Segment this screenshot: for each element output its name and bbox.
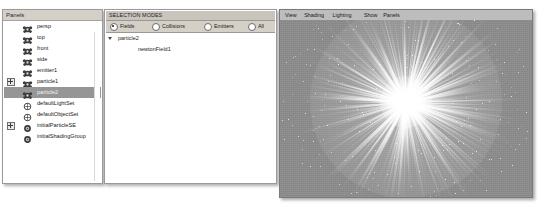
selection-modes-radio-group[interactable]: FieldsCollisionsEmittersAll	[106, 21, 275, 33]
outliner-item-label: initialParticleSE	[37, 120, 76, 131]
outliner-item-defaultlightset[interactable]: defaultLightSet	[4, 98, 101, 109]
field-tree[interactable]: particle2newtonField1	[106, 33, 275, 182]
viewport-menu-panels[interactable]: Panels	[383, 10, 399, 20]
particle-point	[338, 59, 339, 60]
outliner-list[interactable]: persptopfrontsideemitter1particle1partic…	[4, 21, 101, 182]
particle-point	[455, 193, 456, 194]
particle-point	[353, 29, 354, 30]
particle-point	[496, 81, 497, 82]
particle-point	[352, 156, 353, 157]
particle-point	[434, 191, 435, 192]
outliner-item-side[interactable]: side	[4, 54, 101, 65]
particle-point	[447, 149, 448, 150]
panels-outliner-window: Panels persptopfrontsideemitter1particle…	[2, 9, 103, 184]
particle-point	[449, 144, 450, 145]
particle-point	[361, 90, 362, 91]
particle-point	[504, 94, 505, 95]
particle-point	[518, 128, 519, 129]
outliner-item-persp[interactable]: persp	[4, 21, 101, 32]
particle-point	[448, 46, 449, 47]
particle-point	[467, 74, 468, 75]
outliner-item-label: front	[37, 43, 48, 54]
radio-indicator-icon[interactable]	[248, 23, 256, 31]
expand-toggle-icon[interactable]	[7, 78, 15, 86]
particle-point	[489, 101, 490, 102]
particle-point	[523, 66, 524, 67]
particle-point	[310, 166, 311, 167]
expand-toggle-icon[interactable]	[7, 122, 15, 130]
particle-point	[366, 22, 367, 23]
particle-point	[375, 150, 376, 151]
viewport-menu-view[interactable]: View	[285, 10, 297, 20]
particle-point	[465, 36, 466, 37]
particle-point	[357, 109, 358, 110]
particle-point	[463, 190, 464, 191]
particle-point	[345, 30, 346, 31]
radio-label: Emitters	[214, 21, 234, 32]
particle-point	[407, 67, 408, 68]
shading-group-icon	[21, 131, 34, 142]
particle-point	[319, 154, 320, 155]
field-tree-row-newtonfield1[interactable]: newtonField1	[106, 44, 275, 55]
radio-label: Collisions	[162, 21, 185, 32]
particle-point	[315, 93, 316, 94]
selection-modes-body: SELECTION MODES FieldsCollisionsEmitters…	[106, 11, 275, 182]
particle-point	[435, 171, 436, 172]
particle-point	[446, 138, 447, 139]
radio-indicator-icon[interactable]	[204, 23, 212, 31]
viewport-menu-show[interactable]: Show	[364, 10, 378, 20]
particle-point	[323, 139, 324, 140]
outliner-item-front[interactable]: front	[4, 43, 101, 54]
outliner-item-label: defaultObjectSet	[37, 109, 78, 120]
outliner-item-label: particle1	[37, 76, 58, 87]
particle-point	[438, 101, 439, 102]
radio-indicator-icon[interactable]	[110, 23, 118, 31]
particle-point	[327, 125, 328, 126]
particle-point	[373, 178, 374, 179]
particle-point	[453, 40, 454, 41]
radio-emitters[interactable]: Emitters	[204, 21, 234, 32]
particle-point	[357, 192, 358, 193]
particle-point	[418, 150, 419, 151]
particle-point	[511, 87, 512, 88]
particle-point	[313, 130, 314, 131]
field-tree-label: newtonField1	[138, 44, 171, 55]
burst-core	[380, 76, 432, 128]
outliner-item-particle1[interactable]: particle1	[4, 76, 101, 87]
particle-point	[434, 157, 435, 158]
outliner-item-initialshadinggroup[interactable]: initialShadingGroup	[4, 131, 101, 142]
camera-icon	[21, 54, 34, 65]
radio-indicator-icon[interactable]	[152, 23, 160, 31]
particle-point	[332, 36, 333, 37]
outliner-item-defaultobjectset[interactable]: defaultObjectSet	[4, 109, 101, 120]
field-tree-row-particle2[interactable]: particle2	[106, 33, 275, 44]
viewport-menu-shading[interactable]: Shading	[304, 10, 324, 20]
particle-point	[284, 139, 285, 140]
camera-icon	[21, 21, 34, 32]
disclosure-triangle-icon[interactable]	[108, 37, 112, 40]
particle-point	[441, 188, 442, 189]
particle-point	[330, 75, 331, 76]
viewport-menu-lighting[interactable]: Lighting	[333, 10, 352, 20]
particle-burst	[280, 20, 530, 195]
particle-point	[339, 184, 340, 185]
outliner-item-top[interactable]: top	[4, 32, 101, 43]
particle-point	[398, 193, 399, 194]
particle-point	[400, 27, 401, 28]
outliner-item-initialparticlese[interactable]: initialParticleSE	[4, 120, 101, 131]
particle-point	[504, 62, 505, 63]
radio-all[interactable]: All	[248, 21, 264, 32]
radio-label: All	[258, 21, 264, 32]
particle-point	[394, 157, 395, 158]
outliner-item-emitter1[interactable]: emitter1	[4, 65, 101, 76]
outliner-item-label: emitter1	[37, 65, 57, 76]
particle-point	[469, 65, 470, 66]
particle-point	[374, 172, 375, 173]
outliner-scrollbar[interactable]	[94, 32, 100, 181]
radio-fields[interactable]: Fields	[110, 21, 134, 32]
selection-modes-title: SELECTION MODES	[109, 11, 162, 20]
radio-collisions[interactable]: Collisions	[152, 21, 185, 32]
outliner-item-particle2[interactable]: particle2	[4, 87, 101, 98]
particle-point	[468, 118, 469, 119]
viewport-canvas[interactable]	[280, 20, 532, 197]
